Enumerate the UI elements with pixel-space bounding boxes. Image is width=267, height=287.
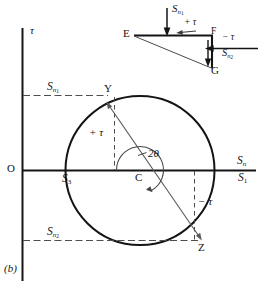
element-shear-top-label: + τ [184, 18, 196, 28]
point-z-label: Z [198, 242, 205, 253]
mohr-circle-figure [0, 0, 267, 287]
element-force-sn1-label: Sn1 [172, 3, 184, 16]
sn-axis-label-sub: n [243, 160, 247, 168]
element-vertex-f-label: F [211, 27, 216, 37]
element-force-sn2-label: Sn2 [222, 48, 233, 60]
element-vertex-g-label: G [211, 65, 219, 76]
angle-2theta-label: 2θ [148, 148, 159, 159]
element-force-sn1-arrow [164, 8, 171, 37]
element-sn1-sub-index: 1 [181, 10, 184, 16]
element-shear-right-arrow [205, 40, 211, 67]
sn2-line-label: Sn2 [47, 226, 59, 240]
tau-negative-label: − τ [198, 196, 212, 207]
intercept-s3-label: S3 [62, 173, 71, 186]
tau-positive-label: + τ [89, 127, 103, 138]
intercept-s1-label: S1 [238, 172, 247, 185]
origin-label: O [7, 163, 15, 174]
element-vertex-e-label: E [123, 28, 130, 39]
point-y-label: Y [104, 83, 112, 94]
intercept-s3-sub: 3 [68, 178, 72, 186]
element-sn2-sub-index: 2 [231, 55, 234, 60]
element-shear-right-label: − τ [222, 33, 234, 43]
element-edge-eg [134, 36, 213, 69]
figure-caption: (b) [4, 263, 17, 274]
sn2-sub-index: 2 [56, 233, 59, 239]
intercept-s1-sub: 1 [244, 177, 248, 185]
tau-axis-label: τ [30, 25, 34, 36]
element-shear-top-arrow [176, 30, 196, 35]
sn1-sub-index: 1 [56, 88, 59, 94]
angle-arc-arrowhead [146, 186, 153, 192]
sn1-line-label: Sn1 [47, 81, 59, 95]
sn-axis-label: Sn [237, 155, 246, 168]
center-c-label: C [135, 172, 142, 183]
angle-2theta-theta: θ [154, 147, 159, 159]
